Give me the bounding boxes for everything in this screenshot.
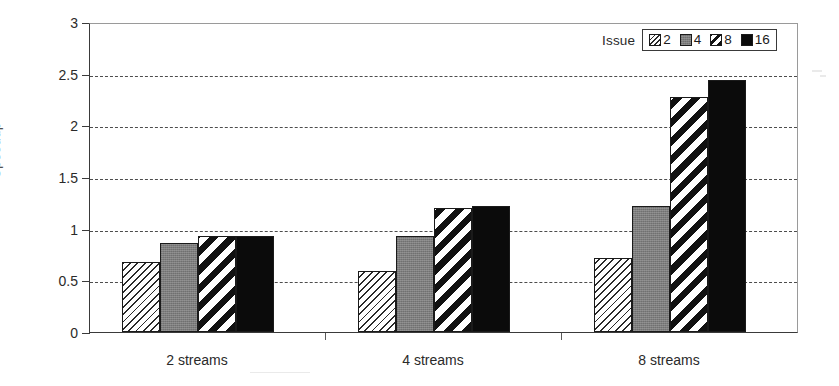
x-axis-label-group-3: 8 streams (638, 352, 699, 368)
scan-artifact (250, 372, 310, 373)
bar-2streams-issue4 (160, 243, 198, 332)
scan-artifact (812, 70, 822, 72)
y-axis-tick (82, 333, 90, 334)
gray-swatch-icon (680, 34, 692, 46)
bars-layer (90, 24, 797, 332)
y-tick-label: 1 (38, 222, 78, 238)
black-swatch-icon (741, 34, 753, 46)
bar-8streams-issue8 (670, 97, 708, 332)
y-axis-title: Speedup (0, 123, 3, 178)
hatch-bold-swatch-icon (710, 34, 722, 46)
legend-item-issue-8: 8 (710, 32, 732, 47)
y-tick-label: 3 (38, 15, 78, 31)
bar-8streams-issue4 (632, 206, 670, 332)
bar-2streams-issue8 (198, 236, 236, 332)
bar-4streams-issue2 (358, 271, 396, 332)
x-axis-label-group-2: 4 streams (402, 352, 463, 368)
bar-chart: 0 0.5 1 1.5 2 2.5 3 Speedup (0, 0, 839, 386)
legend-item-label: 8 (724, 32, 732, 47)
bar-4streams-issue8 (434, 208, 472, 332)
hatch-light-swatch-icon (649, 34, 661, 46)
legend-title: Issue (602, 33, 635, 48)
bar-2streams-issue16 (236, 236, 274, 332)
bar-8streams-issue2 (594, 258, 632, 332)
plot-area (89, 23, 798, 333)
bar-4streams-issue16 (472, 206, 510, 332)
y-axis-tick-labels: 0 0.5 1 1.5 2 2.5 3 (30, 0, 78, 386)
legend-box: 2 4 8 16 (642, 29, 777, 51)
legend-item-issue-2: 2 (649, 32, 671, 47)
x-axis-label-group-1: 2 streams (166, 352, 227, 368)
scan-artifact (820, 75, 826, 77)
legend-item-label: 16 (755, 32, 770, 47)
bar-4streams-issue4 (396, 236, 434, 332)
legend-item-label: 4 (694, 32, 702, 47)
y-tick-label: 1.5 (38, 170, 78, 186)
x-axis-tick (325, 333, 326, 340)
legend: Issue 2 4 8 16 (602, 29, 777, 51)
y-tick-label: 2.5 (38, 67, 78, 83)
y-tick-label: 2 (38, 118, 78, 134)
legend-item-issue-4: 4 (680, 32, 702, 47)
y-tick-label: 0 (38, 325, 78, 341)
bar-8streams-issue16 (708, 80, 746, 332)
legend-item-label: 2 (663, 32, 671, 47)
x-axis-tick (561, 333, 562, 340)
legend-item-issue-16: 16 (741, 32, 770, 47)
bar-2streams-issue2 (122, 262, 160, 332)
y-tick-label: 0.5 (38, 273, 78, 289)
